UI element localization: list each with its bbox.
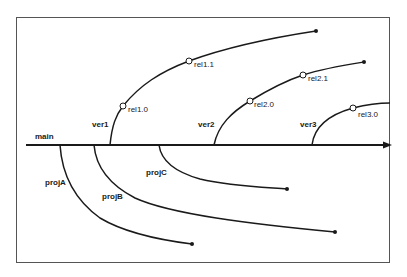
- projB-label: projB: [102, 192, 123, 201]
- rel2-0-label: rel2.0: [254, 100, 275, 109]
- branch-projC: projC: [146, 145, 289, 191]
- rel3-0-label: rel3.0: [358, 110, 379, 119]
- branch-ver3: ver3 rel3.0: [300, 103, 390, 145]
- branch-ver2: ver2 rel2.0 rel2.1: [198, 60, 366, 145]
- main-label: main: [35, 132, 54, 141]
- ver1-label: ver1: [92, 120, 109, 129]
- rel1-0-label: rel1.0: [128, 105, 149, 114]
- release-node-rel1-1: [186, 58, 192, 64]
- branch-end-dot: [190, 242, 194, 246]
- release-node-rel3-0: [350, 105, 356, 111]
- branch-projB: projB: [94, 145, 337, 234]
- branch-diagram: main ver1 rel1.0 rel1.1 ver2 rel2.0 rel2…: [0, 0, 407, 277]
- release-node-rel1-0: [120, 103, 126, 109]
- rel2-1-label: rel2.1: [308, 74, 329, 83]
- main-trunk: main: [26, 132, 392, 149]
- diagram-frame: [17, 18, 390, 263]
- release-node-rel2-1: [300, 72, 306, 78]
- branch-end-dot: [314, 29, 318, 33]
- rel1-1-label: rel1.1: [194, 60, 215, 69]
- arrow-head-icon: [383, 142, 392, 149]
- branch-end-dot: [285, 187, 289, 191]
- release-node-rel2-0: [247, 98, 253, 104]
- ver2-label: ver2: [198, 120, 215, 129]
- branch-end-dot: [333, 230, 337, 234]
- branch-end-dot: [362, 60, 366, 64]
- projA-label: projA: [45, 178, 66, 187]
- ver3-label: ver3: [300, 120, 317, 129]
- projC-label: projC: [146, 168, 167, 177]
